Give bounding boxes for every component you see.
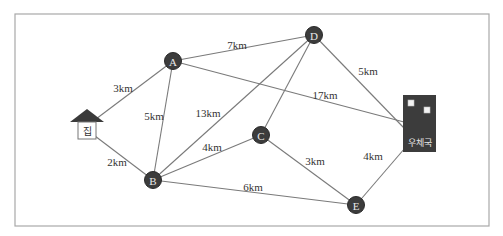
node-d: D — [306, 27, 323, 44]
edge-label: 5km — [144, 110, 164, 122]
edge-label: 17km — [312, 89, 338, 101]
route-diagram: 3km2km7km5km17km13km5km4km6km3km4km 집 우체… — [0, 0, 503, 236]
edge-label: 7km — [227, 39, 247, 51]
edge-label: 5km — [358, 65, 378, 77]
edge-label: 4km — [202, 141, 222, 153]
node-e: E — [348, 197, 365, 214]
edge-label: 13km — [195, 107, 221, 119]
node-label: B — [149, 175, 156, 187]
home-label: 집 — [83, 126, 92, 137]
post-office-icon: 우체국 — [403, 95, 436, 152]
node-a: A — [165, 53, 182, 70]
edge-label: 3km — [305, 155, 325, 167]
node-label: A — [169, 56, 177, 68]
edge-label: 6km — [243, 181, 263, 193]
node-b: B — [145, 172, 162, 189]
edge-label: 3km — [113, 82, 133, 94]
node-c: C — [253, 127, 270, 144]
node-label: C — [257, 130, 264, 142]
post-office-label: 우체국 — [408, 138, 432, 148]
edge-label: 2km — [107, 156, 127, 168]
node-label: E — [353, 200, 360, 212]
edge-label: 4km — [363, 150, 383, 162]
node-label: D — [310, 30, 318, 42]
